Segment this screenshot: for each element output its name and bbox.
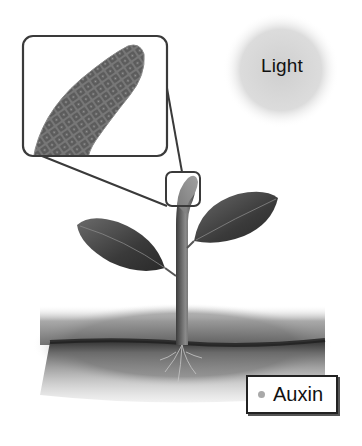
leaf-left [77,218,176,276]
legend-label-auxin: Auxin [273,383,323,406]
light-label: Light [246,55,318,77]
shoot-tip-magnified [23,36,167,160]
auxin-marker-icon [258,391,265,398]
legend: Auxin [246,375,338,414]
